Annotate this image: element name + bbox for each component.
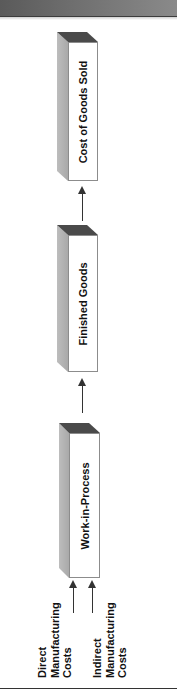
label-line: Indirect (91, 602, 104, 678)
block-cost-of-goods-sold: Cost of Goods Sold (57, 32, 98, 181)
arrow-wip-to-finished (82, 385, 83, 413)
label-indirect-manufacturing-costs: Indirect Manufacturing Costs (91, 602, 129, 678)
bottom-divider (0, 688, 177, 689)
header-bar-shadow (0, 17, 177, 20)
block-finished-goods: Finished Goods (57, 225, 98, 372)
label-line: Manufacturing (104, 602, 117, 678)
block-front-face: Work-in-Process (69, 433, 100, 578)
label-line: Costs (116, 602, 129, 678)
block-front-face: Finished Goods (68, 235, 98, 372)
block-label: Finished Goods (77, 262, 89, 345)
block-side-face (59, 423, 69, 578)
label-direct-manufacturing-costs: Direct Manufacturing Costs (36, 602, 74, 678)
label-line: Costs (61, 602, 74, 678)
label-line: Direct (36, 602, 49, 678)
block-label: Work-in-Process (79, 462, 91, 549)
header-bar (0, 0, 177, 17)
block-work-in-process: Work-in-Process (59, 423, 100, 578)
block-side-face (57, 32, 68, 181)
arrow-finished-to-cogs (82, 193, 83, 221)
block-side-face (57, 225, 68, 372)
block-label: Cost of Goods Sold (77, 60, 89, 163)
label-line: Manufacturing (49, 602, 62, 678)
block-front-face: Cost of Goods Sold (68, 42, 98, 181)
